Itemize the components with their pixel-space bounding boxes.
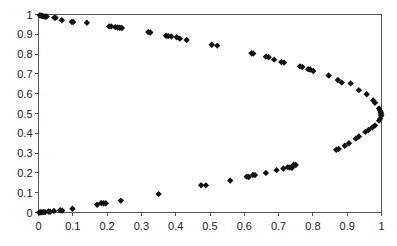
x-tick-label: 0.8 xyxy=(305,220,320,232)
y-axis-tick-labels: 00.10.20.30.40.50.60.70.80.91 xyxy=(17,9,32,219)
data-point xyxy=(214,42,220,48)
data-point xyxy=(347,80,353,86)
y-tick-label: 0.9 xyxy=(17,28,32,40)
data-point xyxy=(325,72,331,78)
data-point xyxy=(69,206,75,212)
data-point-group xyxy=(36,12,384,216)
data-point xyxy=(118,197,124,203)
data-point xyxy=(183,37,189,43)
data-point xyxy=(209,42,215,48)
data-point xyxy=(271,56,277,62)
data-point xyxy=(84,20,90,26)
y-axis-tick-marks xyxy=(35,15,39,213)
y-tick-label: 0.5 xyxy=(17,108,32,120)
x-tick-label: 0.2 xyxy=(99,220,114,232)
data-point xyxy=(364,91,370,97)
x-tick-label: 1 xyxy=(378,220,384,232)
x-tick-label: 0.5 xyxy=(202,220,217,232)
data-point xyxy=(356,87,362,93)
chart-figure: 00.10.20.30.40.50.60.70.80.91 00.10.20.3… xyxy=(0,0,397,246)
y-tick-label: 0 xyxy=(26,207,32,219)
x-tick-label: 0.4 xyxy=(168,220,183,232)
scatter-plot: 00.10.20.30.40.50.60.70.80.91 00.10.20.3… xyxy=(0,0,397,246)
y-tick-label: 0.4 xyxy=(17,127,32,139)
x-axis-tick-labels: 00.10.20.30.40.50.60.70.80.91 xyxy=(35,220,384,232)
x-tick-label: 0.3 xyxy=(134,220,149,232)
y-tick-label: 0.8 xyxy=(17,48,32,60)
y-tick-label: 0.6 xyxy=(17,88,32,100)
y-tick-label: 0.1 xyxy=(17,187,32,199)
x-tick-label: 0.9 xyxy=(340,220,355,232)
y-tick-label: 1 xyxy=(26,9,32,21)
y-tick-label: 0.3 xyxy=(17,147,32,159)
y-tick-label: 0.7 xyxy=(17,68,32,80)
data-point xyxy=(59,17,65,23)
x-axis-tick-marks xyxy=(39,213,382,217)
x-tick-label: 0.6 xyxy=(237,220,252,232)
y-tick-label: 0.2 xyxy=(17,167,32,179)
x-tick-label: 0.1 xyxy=(65,220,80,232)
x-tick-label: 0 xyxy=(35,220,41,232)
data-point xyxy=(155,191,161,197)
data-point xyxy=(227,177,233,183)
x-tick-label: 0.7 xyxy=(271,220,286,232)
data-point xyxy=(263,170,269,176)
data-point xyxy=(273,167,279,173)
data-point xyxy=(203,182,209,188)
